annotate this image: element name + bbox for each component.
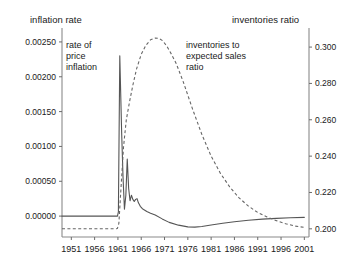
right-axis-tick-label: 0.240 [315,151,337,161]
chart-container: inflation rate inventories ratio 0.00000… [0,0,355,268]
left-axis-tick-label: 0.00150 [25,107,56,117]
x-axis: 1951195619611966197119761981198619911996… [61,237,314,254]
chart-annotations: rate ofpriceinflationinventories toexpec… [66,40,247,72]
annotation-inventories-to-expected-sales-ratio: expected sales [186,51,247,61]
annotation-rate-of-price-inflation: price [66,51,86,61]
annotation-rate-of-price-inflation: rate of [66,40,92,50]
left-axis-title: inflation rate [30,14,82,25]
x-axis-tick-label: 1961 [108,244,128,254]
x-axis-tick-label: 1986 [224,244,244,254]
left-axis-tick-label: 0.00100 [25,141,56,151]
x-axis-tick-label: 1971 [155,244,175,254]
x-axis-tick-label: 2001 [294,244,314,254]
x-axis-tick-label: 1991 [248,244,268,254]
left-axis-tick-label: 0.00250 [25,37,56,47]
left-axis-tick-label: 0.00200 [25,72,56,82]
right-axis-tick-label: 0.200 [315,224,337,234]
left-axis-tick-label: 0.00050 [25,176,56,186]
annotation-inventories-to-expected-sales-ratio: ratio [186,62,204,72]
left-axis-tick-label: 0.00000 [25,211,56,221]
x-axis-tick-label: 1996 [271,244,291,254]
right-axis: 0.2000.2200.2400.2600.2800.300 [309,28,337,237]
x-axis-tick-label: 1951 [61,244,81,254]
right-axis-tick-label: 0.220 [315,187,337,197]
right-axis-tick-label: 0.300 [315,42,337,52]
x-axis-tick-label: 1976 [178,244,198,254]
right-axis-title: inventories ratio [232,14,299,25]
annotation-inventories-to-expected-sales-ratio: inventories to [186,40,240,50]
right-axis-tick-label: 0.280 [315,78,337,88]
right-axis-tick-label: 0.260 [315,115,337,125]
x-axis-tick-label: 1956 [85,244,105,254]
annotation-rate-of-price-inflation: inflation [66,62,97,72]
left-axis: 0.000000.000500.001000.001500.002000.002… [25,28,62,237]
inflation-inventories-chart: inflation rate inventories ratio 0.00000… [0,0,355,268]
x-axis-tick-label: 1966 [131,244,151,254]
x-axis-tick-label: 1981 [201,244,221,254]
series-inventories-to-expected-sales-ratio [62,38,304,229]
axis-titles: inflation rate inventories ratio [30,14,299,25]
data-series [62,38,304,229]
